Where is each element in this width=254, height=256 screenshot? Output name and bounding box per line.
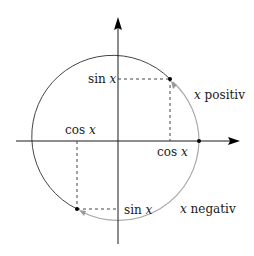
arrow-negative-icon [79, 210, 86, 216]
label-sin-top: sin x [88, 72, 116, 86]
label-var: x [146, 203, 153, 217]
label-var: x [110, 72, 117, 86]
point-x-negative [75, 207, 79, 211]
label-text: sin [124, 203, 142, 217]
label-var: x [89, 123, 96, 137]
label-text: positiv [205, 88, 245, 102]
point-x-positive [168, 77, 172, 81]
label-text: cos [157, 145, 177, 159]
label-cos-left: cos x [65, 123, 96, 137]
label-sin-bottom: sin x [124, 203, 152, 217]
label-var: x [194, 88, 201, 102]
label-var: x [181, 145, 188, 159]
unit-circle-diagram [0, 0, 254, 256]
point-start [197, 139, 201, 143]
label-x-positive: x positiv [194, 88, 245, 102]
label-text: negativ [191, 202, 236, 216]
label-cos-right: cos x [157, 145, 188, 159]
label-x-negative: x negativ [180, 202, 236, 216]
label-var: x [180, 202, 187, 216]
label-text: sin [88, 72, 106, 86]
label-text: cos [65, 123, 85, 137]
